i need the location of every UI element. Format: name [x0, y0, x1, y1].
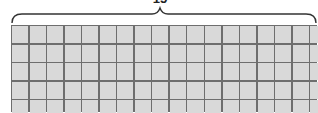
grid-cell — [258, 45, 274, 62]
grid-cell — [293, 100, 309, 113]
grid-cell — [65, 100, 81, 113]
grid-cell — [65, 26, 81, 43]
grid-cell — [223, 82, 239, 99]
grid-cell — [47, 100, 63, 113]
grid-cell — [152, 82, 168, 99]
grid-cell — [223, 63, 239, 80]
grid-cell — [240, 63, 256, 80]
grid-cell — [117, 45, 133, 62]
grid-cell — [30, 26, 46, 43]
grid-cell — [187, 100, 203, 113]
grid-cell — [135, 82, 151, 99]
grid-cell — [275, 82, 291, 99]
grid-cell — [310, 100, 318, 113]
grid-cell — [275, 100, 291, 113]
grid-cell — [170, 82, 186, 99]
grid-cell — [310, 82, 318, 99]
grid-cell — [223, 26, 239, 43]
grid-cell — [152, 63, 168, 80]
grid-cell — [170, 26, 186, 43]
grid-cell — [152, 45, 168, 62]
unit-grid — [11, 25, 317, 112]
grid-cell — [100, 63, 116, 80]
grid-cell — [205, 100, 221, 113]
grid-cell — [12, 63, 28, 80]
grid-cell — [293, 82, 309, 99]
grid-cell — [135, 100, 151, 113]
grid-cell — [275, 63, 291, 80]
grid-cell — [258, 82, 274, 99]
grid-cell — [82, 45, 98, 62]
grid-cell — [100, 82, 116, 99]
grid-cell — [170, 45, 186, 62]
grid-cell — [187, 45, 203, 62]
grid-cell — [65, 63, 81, 80]
grid-cell — [117, 82, 133, 99]
grid-cell — [12, 100, 28, 113]
grid-cell — [82, 63, 98, 80]
grid-cell — [152, 26, 168, 43]
grid-cell — [65, 45, 81, 62]
grid-cell — [223, 100, 239, 113]
grid-cell — [30, 45, 46, 62]
grid-cell — [152, 100, 168, 113]
grid-cell — [293, 45, 309, 62]
grid-cell — [135, 45, 151, 62]
grid-cell — [117, 100, 133, 113]
grid-cell — [205, 45, 221, 62]
grid-cell — [293, 26, 309, 43]
grid-cell — [100, 100, 116, 113]
grid-cell — [258, 26, 274, 43]
grid-cell — [47, 63, 63, 80]
grid-cell — [100, 26, 116, 43]
grid-cell — [310, 45, 318, 62]
grid-cell — [258, 100, 274, 113]
grid-cell — [170, 63, 186, 80]
grid-cell — [205, 82, 221, 99]
grid-cell — [240, 100, 256, 113]
grid-cell — [205, 63, 221, 80]
grid-cell — [135, 26, 151, 43]
grid-cell — [275, 26, 291, 43]
grid-cell — [117, 26, 133, 43]
grid-cell — [170, 100, 186, 113]
grid-cell — [47, 26, 63, 43]
grid-cell — [117, 63, 133, 80]
grid-cell — [310, 63, 318, 80]
grid-cell — [65, 82, 81, 99]
grid-cell — [82, 26, 98, 43]
grid-cell — [240, 45, 256, 62]
grid-cell — [100, 45, 116, 62]
grid-cell — [293, 63, 309, 80]
grid-cell — [258, 63, 274, 80]
grid-cell — [310, 26, 318, 43]
grid-cell — [12, 82, 28, 99]
grid-cell — [30, 100, 46, 113]
grid-cell — [240, 82, 256, 99]
grid-cell — [187, 63, 203, 80]
grid-cell — [12, 26, 28, 43]
grid-cell — [135, 63, 151, 80]
grid-cell — [30, 82, 46, 99]
grid-cell — [47, 82, 63, 99]
grid-cell — [82, 100, 98, 113]
grid-cell — [275, 45, 291, 62]
grid-cell — [47, 45, 63, 62]
grid-cell — [240, 26, 256, 43]
grid-cell — [82, 82, 98, 99]
grid-cell — [12, 45, 28, 62]
grid-cell — [205, 26, 221, 43]
grid-cell — [223, 45, 239, 62]
grid-cell — [187, 82, 203, 99]
grid-cell — [30, 63, 46, 80]
grid-cell — [187, 26, 203, 43]
